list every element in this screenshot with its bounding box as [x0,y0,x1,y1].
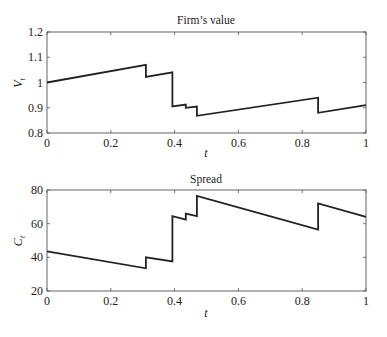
figure: Firm’s value 0.80.911.11.2 00.20.40.60.8… [0,0,387,337]
chart-title: Spread [190,173,222,186]
x-tick-label: 0.6 [231,294,246,308]
svg-text:Vt: Vt [11,77,27,87]
x-tick-label: 1 [363,294,369,308]
x-tick-label: 0.6 [231,136,246,150]
x-tick-label: 0.2 [103,294,118,308]
x-tick-label: 0 [44,136,50,150]
x-tick-label: 0.4 [167,136,182,150]
y-ticks: 0.80.911.11.2 [28,25,366,140]
y-tick-label: 0.9 [28,101,43,115]
y-tick-label: 60 [31,217,43,231]
x-axis-label: t [204,306,208,320]
x-axis-label: t [204,146,208,160]
y-axis-label: Ct [11,235,27,246]
y-axis-label: Vt [11,77,27,87]
y-tick-label: 1.1 [28,50,43,64]
x-tick-label: 0.8 [295,136,310,150]
chart-firms-value: Firm’s value 0.80.911.11.2 00.20.40.60.8… [11,14,369,160]
y-tick-label: 20 [31,284,43,298]
y-tick-label: 40 [31,250,43,264]
svg-text:Ct: Ct [11,235,27,246]
chart-title: Firm’s value [177,14,235,26]
x-tick-label: 0.2 [103,136,118,150]
y-tick-label: 1.2 [28,25,43,39]
x-tick-label: 1 [363,136,369,150]
x-tick-label: 0.4 [167,294,182,308]
x-tick-label: 0 [44,294,50,308]
series-line-c [47,196,366,268]
series-line-v [47,65,366,116]
axes-box [47,32,366,133]
x-ticks: 00.20.40.60.81 [44,32,369,150]
y-tick-label: 80 [31,183,43,197]
y-ticks: 20406080 [31,183,366,298]
chart-spread: Spread 20406080 00.20.40.60.81 t Ct [11,173,369,320]
x-tick-label: 0.8 [295,294,310,308]
y-tick-label: 0.8 [28,126,43,140]
x-ticks: 00.20.40.60.81 [44,190,369,308]
y-tick-label: 1 [37,76,43,90]
